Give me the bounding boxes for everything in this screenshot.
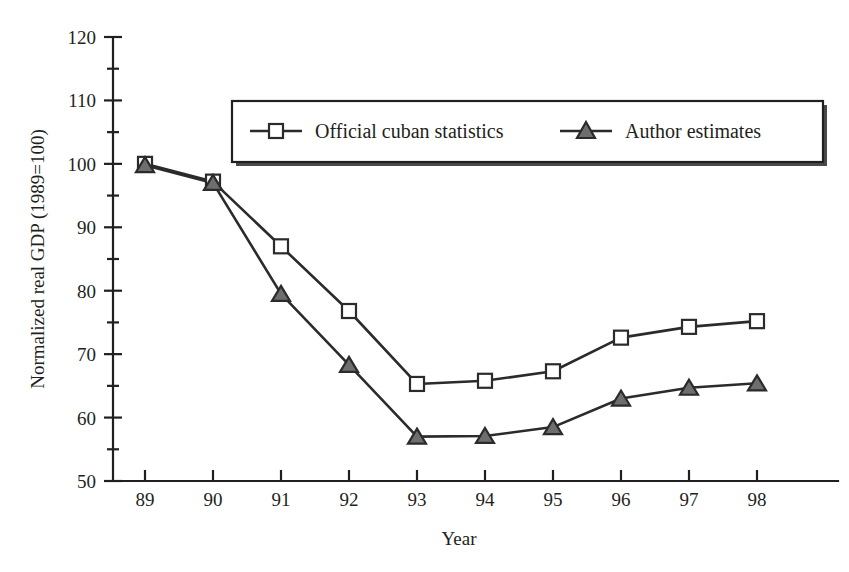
marker-open-square [342, 304, 356, 318]
y-tick-label: 120 [68, 27, 97, 48]
marker-filled-triangle [272, 286, 290, 301]
marker-open-square [478, 374, 492, 388]
x-tick-label: 92 [340, 489, 359, 510]
x-axis-title: Year [441, 528, 477, 549]
y-tick-label: 100 [68, 154, 97, 175]
x-tick-label: 95 [544, 489, 563, 510]
y-tick-label: 70 [77, 344, 96, 365]
x-axis-tick-labels: 89909192939495969798 [136, 489, 767, 510]
x-tick-label: 91 [272, 489, 291, 510]
x-tick-label: 98 [748, 489, 767, 510]
x-axis-ticks [145, 470, 757, 481]
marker-open-square [274, 239, 288, 253]
y-tick-label: 110 [68, 90, 96, 111]
x-tick-label: 89 [136, 489, 155, 510]
open-square-icon [269, 124, 283, 138]
marker-open-square [546, 364, 560, 378]
series-line-official [145, 164, 757, 384]
x-tick-label: 90 [204, 489, 223, 510]
chart-page: 1201101009080706050 89909192939495969798… [0, 0, 849, 572]
marker-open-square [682, 320, 696, 334]
y-tick-label: 80 [77, 281, 96, 302]
marker-open-square [614, 331, 628, 345]
gdp-line-chart: 1201101009080706050 89909192939495969798… [0, 0, 849, 572]
x-tick-label: 96 [612, 489, 631, 510]
x-tick-label: 97 [680, 489, 699, 510]
y-axis-tick-labels: 1201101009080706050 [68, 27, 97, 492]
y-tick-label: 50 [77, 471, 96, 492]
y-tick-label: 60 [77, 408, 96, 429]
x-tick-label: 94 [476, 489, 496, 510]
y-axis-title: Normalized real GDP (1989=100) [27, 129, 49, 389]
marker-filled-triangle [544, 419, 562, 434]
series-lines [145, 164, 757, 437]
legend-label-author: Author estimates [625, 120, 761, 142]
y-tick-label: 90 [77, 217, 96, 238]
legend-label-official: Official cuban statistics [315, 120, 504, 142]
marker-open-square [750, 314, 764, 328]
x-tick-label: 93 [408, 489, 427, 510]
marker-open-square [410, 377, 424, 391]
legend: Official cuban statistics Author estimat… [232, 101, 827, 166]
